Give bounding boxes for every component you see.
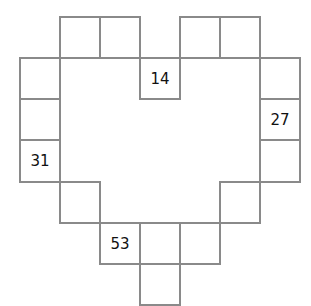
numbered-cell[interactable]: 31 (19, 139, 61, 183)
empty-cell[interactable] (219, 181, 261, 224)
empty-cell[interactable] (59, 181, 101, 224)
numbered-cell[interactable]: 14 (139, 57, 181, 100)
numbered-cell[interactable]: 27 (259, 98, 301, 141)
empty-cell[interactable] (19, 98, 61, 141)
empty-cell[interactable] (259, 57, 301, 100)
empty-cell[interactable] (179, 222, 221, 265)
empty-cell[interactable] (139, 263, 181, 306)
numbered-cell[interactable]: 53 (99, 222, 141, 265)
empty-cell[interactable] (59, 16, 101, 59)
empty-cell[interactable] (139, 222, 181, 265)
empty-cell[interactable] (219, 16, 261, 59)
empty-cell[interactable] (179, 16, 221, 59)
empty-cell[interactable] (259, 139, 301, 183)
empty-cell[interactable] (99, 16, 141, 59)
empty-cell[interactable] (19, 57, 61, 100)
